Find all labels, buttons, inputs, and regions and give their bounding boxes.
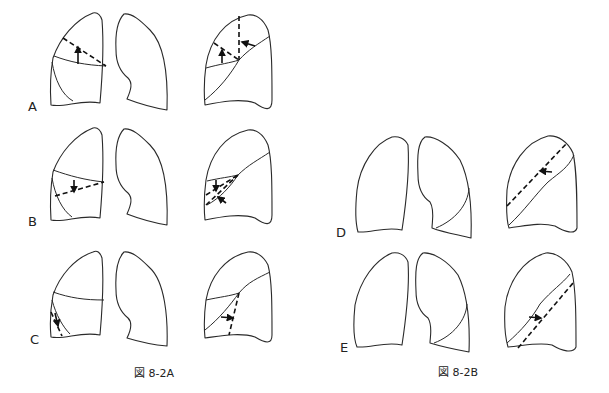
right-lung-frontal	[50, 128, 102, 221]
lateral-major-fissure	[205, 36, 270, 100]
arrow-lateral-right	[529, 317, 541, 318]
left-lung-frontal	[418, 137, 472, 238]
panel-a: A	[28, 13, 272, 114]
lingula-fissure	[434, 304, 467, 343]
lateral-major-fissure	[207, 152, 270, 205]
minor-fissure	[53, 170, 104, 182]
lateral-dashed-horizontal	[214, 43, 239, 60]
panel-b: B	[28, 128, 272, 229]
normal-fissure-dashed	[63, 38, 106, 66]
panel-c: C	[30, 251, 272, 347]
panel-d: D	[336, 136, 577, 240]
lung-collapse-diagram: A B C 図 8-2A	[0, 0, 609, 393]
major-fissure	[52, 178, 72, 217]
major-fissure	[52, 300, 70, 334]
panel-label-a: A	[28, 99, 37, 114]
left-lung-lateral	[507, 136, 577, 232]
panel-label-c: C	[30, 332, 39, 347]
normal-fissure-dashed	[51, 312, 62, 336]
right-lung-frontal	[356, 137, 409, 232]
arrow-lateral-left	[242, 42, 255, 46]
panel-label-d: D	[336, 225, 346, 240]
arrow-lateral-up	[218, 197, 226, 203]
arrow-lateral-left	[540, 171, 552, 172]
caption-8-2a: 図 8-2A	[134, 367, 174, 380]
right-lung-frontal	[354, 253, 408, 347]
lingula-fissure	[436, 188, 469, 228]
arrow-lateral-right	[221, 317, 233, 318]
panel-label-e: E	[340, 340, 348, 355]
minor-fissure	[53, 292, 104, 300]
right-lung-frontal	[50, 13, 102, 106]
left-lung-frontal	[116, 14, 167, 110]
lateral-dashed	[518, 283, 573, 348]
left-lung-frontal	[116, 129, 167, 225]
lateral-major-fissure	[509, 155, 574, 225]
panel-e: E	[340, 253, 576, 355]
left-lung-frontal	[416, 253, 470, 352]
caption-8-2b: 図 8-2B	[438, 366, 478, 379]
right-lung-lateral	[204, 130, 272, 224]
panel-label-b: B	[28, 214, 37, 229]
lateral-major-fissure	[507, 274, 570, 343]
left-lung-lateral	[505, 253, 576, 351]
left-lung-frontal	[116, 252, 167, 346]
major-fissure	[52, 62, 73, 101]
normal-fissure-dashed	[55, 182, 104, 196]
